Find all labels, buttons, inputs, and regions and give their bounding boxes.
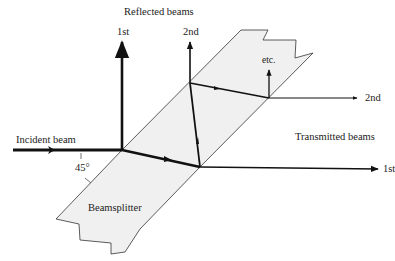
- incident-beam-label: Incident beam: [16, 135, 76, 146]
- reflected-beams-label: Reflected beams: [124, 7, 194, 18]
- etc-label: etc.: [262, 56, 275, 66]
- transmitted-beams-label: Transmitted beams: [295, 132, 375, 143]
- reflected-1st-label: 1st: [117, 27, 129, 38]
- transmitted-2nd-label: 2nd: [365, 93, 381, 104]
- reflected-2nd-label: 2nd: [183, 27, 199, 38]
- transmitted-1st-label: 1st: [383, 164, 395, 175]
- angle-tick-2: [85, 178, 91, 183]
- transmitted-beam-1st: [200, 167, 378, 169]
- beamsplitter-label: Beamsplitter: [88, 203, 142, 214]
- angle-label: 45°: [75, 163, 90, 174]
